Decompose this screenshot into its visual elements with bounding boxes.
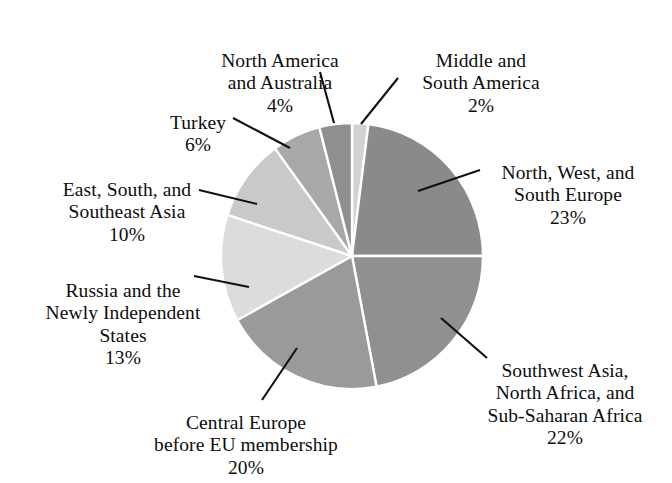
slice-label-text: Central Europe before EU membership (154, 412, 338, 455)
slice-label-text: Southwest Asia, North Africa, and Sub-Sa… (487, 360, 642, 425)
slice-label-text: Middle and South America (422, 50, 540, 93)
slice-label-percent: 13% (12, 347, 234, 369)
slice-label-text: East, South, and Southeast Asia (63, 179, 191, 222)
slice-label-text: North, West, and South Europe (502, 162, 635, 205)
slice-label-text: Russia and the Newly Independent States (46, 280, 201, 345)
slice-label-percent: 20% (98, 457, 394, 479)
slice-label-percent: 23% (468, 207, 668, 229)
pie-chart-figure: North America and Australia 4% Middle an… (0, 0, 672, 483)
slice-label-text: Turkey (170, 112, 226, 133)
slice-label-percent: 6% (132, 134, 264, 156)
slice-label-percent: 10% (14, 224, 240, 246)
slice-label-central-europe-before-eu-membership: Central Europe before EU membership 20% (98, 390, 394, 483)
slice-label-text: North America and Australia (221, 50, 339, 93)
slice-label-southwest-asia-north-africa-sub-saharan-africa: Southwest Asia, North Africa, and Sub-Sa… (462, 338, 668, 471)
slice-label-east-south-southeast-asia: East, South, and Southeast Asia 10% (14, 157, 240, 268)
slice-label-middle-south-america: Middle and South America 2% (392, 28, 570, 139)
slice-label-percent: 22% (462, 427, 668, 449)
slice-label-percent: 2% (392, 95, 570, 117)
slice-label-russia-newly-independent-states: Russia and the Newly Independent States … (12, 258, 234, 391)
slice-label-north-west-south-europe: North, West, and South Europe 23% (468, 140, 668, 251)
pie-slice-north-west-south-europe[interactable] (352, 124, 483, 256)
